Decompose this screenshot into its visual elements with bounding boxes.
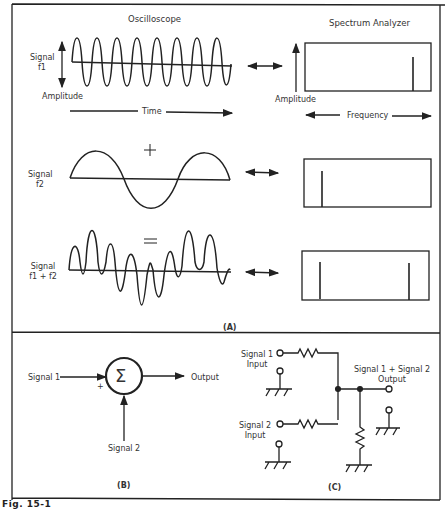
sigma-icon: Σ <box>115 366 126 386</box>
plus-sign: + <box>97 382 104 392</box>
output-label: Output <box>191 373 219 383</box>
signal-2-label: Signal 2 <box>108 444 140 454</box>
signal-sum-label: Signalf1 + f2 <box>26 262 60 282</box>
figure-caption: Fig. 15-1 <box>2 499 51 509</box>
spectrum-screen-f1 <box>305 43 431 91</box>
spectrum-amplitude-label: Amplitude <box>275 95 316 105</box>
signal-f1-label: Signalf1 <box>30 53 54 73</box>
signal-f2-label: Signalf2 <box>28 170 52 190</box>
amplitude-label: Amplitude <box>42 92 83 102</box>
signal-1-label: Signal 1 <box>28 373 60 383</box>
time-label: Time <box>142 107 162 117</box>
panel-c-label: (C) <box>328 483 341 493</box>
output-sum-label: Signal 1 + Signal 2Output <box>349 365 435 385</box>
panel-b-label: (B) <box>117 481 130 491</box>
spectrum-screen-sum <box>302 251 429 300</box>
frequency-label: Frequency <box>347 111 388 121</box>
oscilloscope-title: Oscilloscope <box>128 14 181 24</box>
frame-a <box>12 4 445 500</box>
spectrum-analyzer-title: Spectrum Analyzer <box>329 18 410 28</box>
panel-a-label: (A) <box>223 323 237 333</box>
signal-1-input-label: Signal 1Input <box>238 350 276 370</box>
signal-2-input-label: Signal 2Input <box>236 421 274 441</box>
signal-sum-wave <box>69 231 230 306</box>
spectrum-screen-f2 <box>304 159 431 207</box>
